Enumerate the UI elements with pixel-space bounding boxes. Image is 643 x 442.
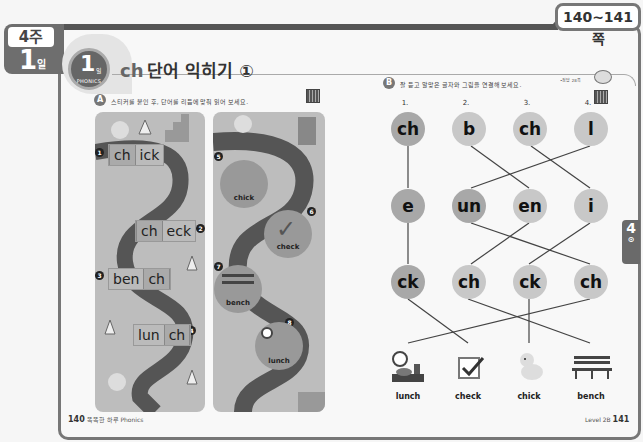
letter-node-r2-c1[interactable]: e xyxy=(391,189,425,223)
chick-icon[interactable] xyxy=(515,350,545,386)
footer-left: 140 똑똑한 하루 Phonics xyxy=(68,415,143,424)
footer-right: Level 2B 141 xyxy=(585,415,629,424)
book-title: 똑똑한 하루 Phonics xyxy=(87,416,144,423)
unit-sub-icon: ⊙ xyxy=(622,236,640,244)
picture-label-chick: chick xyxy=(504,392,554,401)
letter-node-r3-c1[interactable]: ck xyxy=(391,265,425,299)
unit-side-tab[interactable]: 4 ⊙ xyxy=(622,220,640,264)
connection-lines xyxy=(0,0,643,442)
picture-label-lunch: lunch xyxy=(383,392,433,401)
letter-node-r3-c4[interactable]: ch xyxy=(574,265,608,299)
letter-node-r2-c2[interactable]: un xyxy=(452,189,486,223)
letter-node-r1-c3[interactable]: ch xyxy=(513,112,547,146)
book-level: Level 2B xyxy=(585,416,611,423)
picture-label-check: check xyxy=(443,392,493,401)
page-number-left: 140 xyxy=(68,415,85,424)
letter-node-r1-c4[interactable]: l xyxy=(574,112,608,146)
page-number-right: 141 xyxy=(613,415,630,424)
letter-node-r2-c4[interactable]: i xyxy=(574,189,608,223)
letter-node-r3-c3[interactable]: ck xyxy=(513,265,547,299)
letter-node-r1-c1[interactable]: ch xyxy=(391,112,425,146)
bench-icon[interactable] xyxy=(572,352,612,382)
lunch-tray-icon[interactable] xyxy=(390,350,426,386)
checkbox-icon[interactable] xyxy=(455,352,487,384)
letter-node-r3-c2[interactable]: ch xyxy=(452,265,486,299)
letter-node-r1-c2[interactable]: b xyxy=(452,112,486,146)
picture-label-bench: bench xyxy=(566,392,616,401)
letter-node-r2-c3[interactable]: en xyxy=(513,189,547,223)
textbook-spread: 140~141쪽 4주 1 일 1 일 PHONICS ch단어 익히기 ① •… xyxy=(0,0,643,442)
unit-number: 4 xyxy=(622,220,640,236)
